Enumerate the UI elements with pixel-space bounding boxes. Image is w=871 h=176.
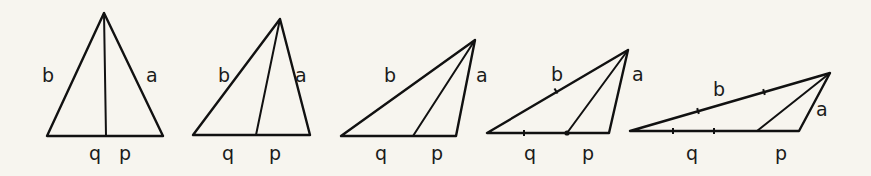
triangles-diagram: baqpbaqpbaqpbaqpbaqp (0, 0, 871, 176)
label-a: a (146, 64, 158, 86)
triangle-1: baqp (42, 13, 163, 164)
label-q: q (375, 142, 387, 164)
triangle-outline (630, 73, 830, 131)
label-q: q (222, 142, 234, 164)
tick-mark (697, 108, 699, 114)
label-p: p (269, 142, 281, 164)
cevian-line (104, 13, 106, 136)
label-b: b (551, 63, 563, 85)
triangle-5: baqp (630, 73, 830, 164)
label-p: p (431, 142, 443, 164)
label-b: b (42, 64, 54, 86)
triangle-2: baqp (193, 19, 310, 164)
triangle-outline (341, 40, 475, 136)
tick-dot (564, 130, 569, 135)
tick-mark (763, 89, 765, 95)
triangle-4: baqp (487, 50, 644, 164)
label-a: a (632, 63, 644, 85)
label-p: p (119, 142, 131, 164)
label-a: a (476, 64, 488, 86)
label-q: q (89, 142, 101, 164)
label-a: a (295, 64, 307, 86)
label-p: p (775, 142, 787, 164)
label-q: q (686, 142, 698, 164)
label-b: b (218, 64, 230, 86)
label-b: b (384, 64, 396, 86)
label-a: a (816, 98, 828, 120)
triangle-outline (193, 19, 310, 135)
triangle-3: baqp (341, 40, 488, 164)
label-p: p (582, 142, 594, 164)
label-q: q (524, 142, 536, 164)
label-b: b (713, 78, 725, 100)
